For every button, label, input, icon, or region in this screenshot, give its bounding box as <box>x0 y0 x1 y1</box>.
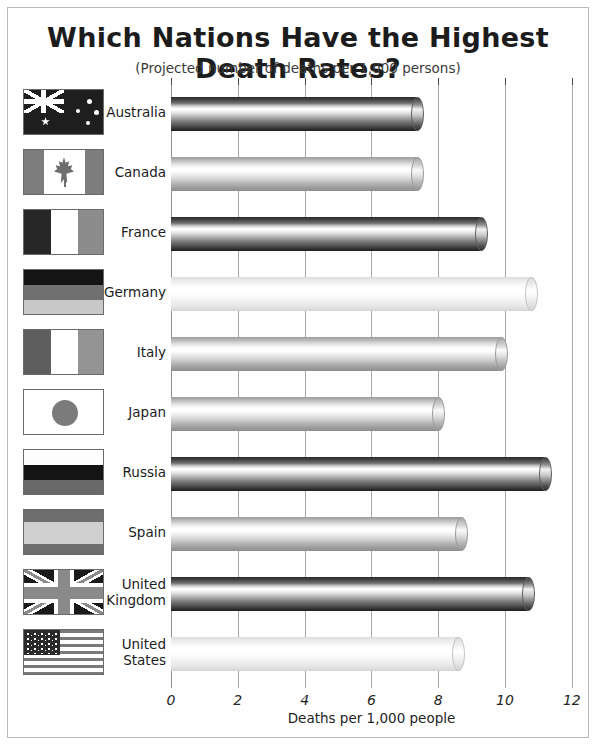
xtick-10: 10 <box>496 692 514 708</box>
bar-germany <box>171 277 538 311</box>
category-label-france: France <box>46 224 166 240</box>
category-label-united-states: United States <box>46 636 166 668</box>
xtick-12: 12 <box>563 692 581 708</box>
category-label-japan: Japan <box>46 404 166 420</box>
bar-united-kingdom <box>171 577 535 611</box>
xtick-0: 0 <box>167 692 176 708</box>
category-label-australia: Australia <box>46 104 166 120</box>
bar-australia <box>171 97 424 131</box>
xtick-4: 4 <box>300 692 309 708</box>
bar-italy <box>171 337 508 371</box>
bar-russia <box>171 457 552 491</box>
category-label-russia: Russia <box>46 464 166 480</box>
category-label-united-kingdom: United Kingdom <box>46 576 166 608</box>
chart-frame: Which Nations Have the Highest Death Rat… <box>7 7 589 738</box>
category-label-italy: Italy <box>46 344 166 360</box>
x-axis-title: Deaths per 1,000 people <box>171 710 572 726</box>
bar-united-states <box>171 637 465 671</box>
category-label-canada: Canada <box>46 164 166 180</box>
category-label-uk-line1: United <box>46 576 166 592</box>
xtick-6: 6 <box>367 692 376 708</box>
chart-subtitle: (Projected number of deaths per 1,000 pe… <box>8 60 588 76</box>
bar-france <box>171 217 488 251</box>
xtick-8: 8 <box>434 692 443 708</box>
plot-area: 0 2 4 6 8 10 12 <box>171 84 572 688</box>
category-label-us-line2: States <box>46 652 166 668</box>
category-label-us-line1: United <box>46 636 166 652</box>
bar-canada <box>171 157 424 191</box>
xtick-2: 2 <box>233 692 242 708</box>
gridline-12 <box>572 84 573 688</box>
category-label-spain: Spain <box>46 524 166 540</box>
bar-spain <box>171 517 468 551</box>
category-label-germany: Germany <box>46 284 166 300</box>
category-label-uk-line2: Kingdom <box>46 592 166 608</box>
bar-japan <box>171 397 445 431</box>
